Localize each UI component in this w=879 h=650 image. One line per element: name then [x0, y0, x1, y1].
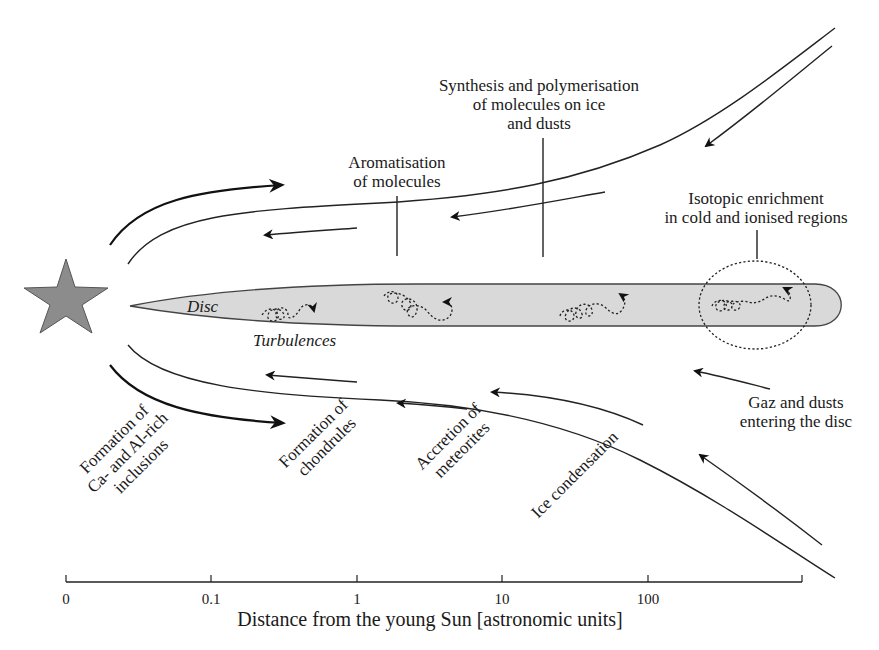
inward-arrow-lower-1 [492, 392, 643, 425]
svg-text:of molecules: of molecules [353, 172, 440, 191]
disc [130, 284, 841, 326]
tick-100: 100 [637, 591, 660, 607]
inward-arrow-upper-2 [265, 228, 357, 235]
gaz-inflow-arrow [695, 371, 770, 389]
inward-arrow-lower-3 [267, 375, 357, 382]
disc-label: Disc [186, 297, 219, 316]
inward-arrow-upper-1 [452, 192, 605, 217]
gaz-label: Gaz and dusts entering the disc [740, 393, 853, 431]
meteorites-label: Accretion of meteorites [411, 399, 499, 487]
tick-10: 10 [495, 591, 510, 607]
tick-0: 0 [62, 591, 70, 607]
lower-streamline [128, 345, 835, 578]
cai-label: Formation of Ca- and Al-rich inclusions [70, 395, 185, 510]
distance-axis [66, 575, 802, 582]
upper-streamline [128, 28, 835, 264]
svg-text:Synthesis and polymerisation: Synthesis and polymerisation [439, 76, 640, 95]
inflow-arrow-bottom [700, 455, 822, 545]
star-icon [24, 259, 108, 333]
svg-text:Aromatisation: Aromatisation [348, 153, 446, 172]
chondrules-label: Formation of chondrules [275, 395, 365, 485]
svg-text:and dusts: and dusts [507, 114, 571, 133]
axis-tick-labels: 0 0.1 1 10 100 [62, 591, 659, 607]
turbulences-label: Turbulences [253, 331, 336, 350]
inflow-arrow-top [706, 46, 832, 146]
isotopic-label: Isotopic enrichment in cold and ionised … [664, 189, 847, 227]
svg-text:Isotopic enrichment: Isotopic enrichment [688, 189, 824, 208]
svg-text:Gaz and dusts: Gaz and dusts [748, 393, 843, 412]
axis-title: Distance from the young Sun [astronomic … [237, 608, 623, 631]
tick-0.1: 0.1 [202, 591, 221, 607]
outflow-arrow-upper [110, 185, 282, 245]
ice-condensation-label: Ice condensation [527, 427, 622, 522]
protoplanetary-disc-diagram: Disc Turbulences Synthesis and polymeris… [0, 0, 879, 650]
svg-text:in cold and ionised regions: in cold and ionised regions [664, 208, 847, 227]
svg-text:of molecules on ice: of molecules on ice [473, 95, 606, 114]
aromatisation-label: Aromatisation of molecules [348, 153, 446, 191]
synthesis-label: Synthesis and polymerisation of molecule… [439, 76, 640, 133]
svg-text:Ice condensation: Ice condensation [527, 427, 622, 522]
svg-text:entering the disc: entering the disc [740, 412, 853, 431]
tick-1: 1 [353, 591, 361, 607]
